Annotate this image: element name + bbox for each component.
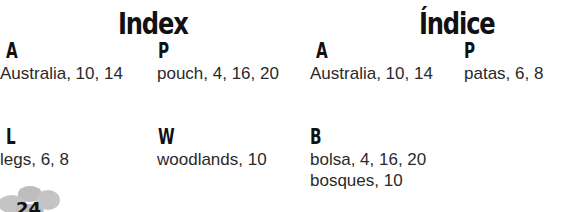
letter-heading: W <box>158 126 175 148</box>
index-entry: legs, 6, 8 <box>0 150 69 170</box>
index-entry: Australia, 10, 14 <box>310 64 433 84</box>
index-entry: pouch, 4, 16, 20 <box>157 64 279 84</box>
letter-heading: A <box>316 40 328 62</box>
letter-heading: P <box>158 40 169 62</box>
letter-heading: A <box>6 40 18 62</box>
index-entry: bosques, 10 <box>310 171 403 191</box>
index-entry: woodlands, 10 <box>157 150 267 170</box>
letter-heading: B <box>310 126 322 148</box>
index-entry: patas, 6, 8 <box>464 64 543 84</box>
letter-heading: P <box>464 40 475 62</box>
index-entry: bolsa, 4, 16, 20 <box>310 150 426 170</box>
letter-heading: L <box>6 126 16 148</box>
page-number: 24 <box>16 200 41 212</box>
english-title: Index <box>118 6 188 40</box>
spanish-title: Índice <box>419 6 495 40</box>
index-entry: Australia, 10, 14 <box>0 64 123 84</box>
